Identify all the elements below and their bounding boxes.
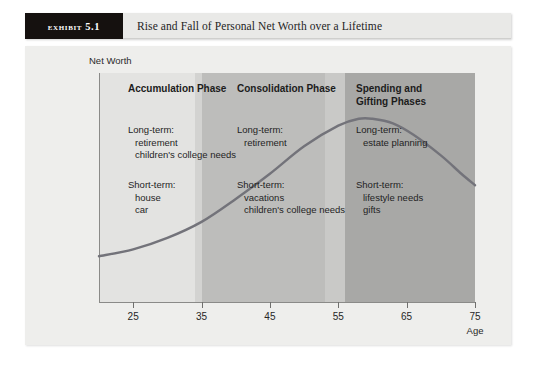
exhibit-number-tag: Exhibit 5.1 <box>25 13 123 39</box>
long-term-label: Long-term: <box>128 124 236 137</box>
short-term-item: children's college needs <box>237 204 345 217</box>
short-term-label: Short-term: <box>128 179 176 192</box>
long-term-label: Long-term: <box>356 124 427 137</box>
short-term-block-consolidation: Short-term:vacationschildren's college n… <box>237 179 345 217</box>
phase-heading-line-1: Spending and <box>356 83 426 96</box>
plot-area: Net Worth 253545556575 Age Accumulation … <box>25 46 511 345</box>
exhibit-title-bar: Rise and Fall of Personal Net Worth over… <box>123 13 511 39</box>
short-term-item: lifestyle needs <box>356 192 423 205</box>
exhibit-title: Rise and Fall of Personal Net Worth over… <box>137 20 382 32</box>
short-term-block-accumulation: Short-term:housecar <box>128 179 176 217</box>
long-term-item: retirement <box>237 137 287 150</box>
long-term-item: retirement <box>128 137 236 150</box>
long-term-block-accumulation: Long-term:retirementchildren's college n… <box>128 124 236 162</box>
short-term-item: gifts <box>356 204 423 217</box>
short-term-label: Short-term: <box>237 179 345 192</box>
exhibit-header: Exhibit 5.1 Rise and Fall of Personal Ne… <box>25 13 511 39</box>
phase-heading-spending: Spending andGifting Phases <box>356 83 426 108</box>
short-term-block-spending: Short-term:lifestyle needsgifts <box>356 179 423 217</box>
long-term-item: children's college needs <box>128 149 236 162</box>
chart-panel: Net Worth 253545556575 Age Accumulation … <box>25 46 511 345</box>
short-term-label: Short-term: <box>356 179 423 192</box>
exhibit-figure: Exhibit 5.1 Rise and Fall of Personal Ne… <box>0 0 538 366</box>
short-term-item: vacations <box>237 192 345 205</box>
short-term-item: house <box>128 192 176 205</box>
long-term-block-consolidation: Long-term:retirement <box>237 124 287 149</box>
short-term-item: car <box>128 204 176 217</box>
phase-heading-accumulation: Accumulation Phase <box>128 83 226 96</box>
long-term-block-spending: Long-term:estate planning <box>356 124 427 149</box>
phase-heading-line-2: Gifting Phases <box>356 96 426 109</box>
long-term-item: estate planning <box>356 137 427 150</box>
long-term-label: Long-term: <box>237 124 287 137</box>
phase-heading-consolidation: Consolidation Phase <box>237 83 336 96</box>
